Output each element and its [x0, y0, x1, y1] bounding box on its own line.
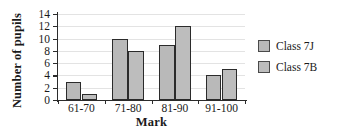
- y-axis-tick-label: 10: [39, 33, 51, 45]
- x-axis-category-label: 61-70: [68, 102, 95, 114]
- legend-item: Class 7B: [258, 57, 317, 76]
- gridline: [58, 51, 245, 52]
- y-axis-tick-label: 2: [44, 82, 50, 94]
- x-axis-title: Mark: [58, 115, 245, 130]
- bar: [112, 39, 128, 100]
- gridline: [58, 14, 245, 15]
- gridline: [58, 63, 245, 64]
- bar: [222, 69, 238, 100]
- y-axis-tick-label: 8: [44, 45, 50, 57]
- y-axis-tick-label: 4: [44, 69, 50, 81]
- bar: [206, 75, 222, 100]
- legend-label: Class 7B: [276, 61, 317, 73]
- y-axis-title: Number of pupils: [10, 13, 25, 109]
- plot-inner: 0246810121461-7071-8081-9091-100: [58, 14, 245, 100]
- x-axis-category-label: 81-90: [161, 102, 188, 114]
- x-axis-category-label: 71-80: [115, 102, 142, 114]
- y-axis-tick-label: 12: [39, 20, 51, 32]
- bar-chart: Number of pupils 0246810121461-7071-8081…: [0, 0, 342, 138]
- gridline: [58, 26, 245, 27]
- bar: [128, 51, 144, 100]
- bar: [175, 26, 191, 100]
- legend-label: Class 7J: [276, 40, 314, 52]
- x-axis-category-label: 91-100: [205, 102, 238, 114]
- bar: [159, 45, 175, 100]
- legend-swatch: [258, 40, 270, 52]
- legend-swatch: [258, 61, 270, 73]
- x-axis-line: [57, 100, 247, 101]
- y-axis-line: [57, 12, 58, 102]
- legend: Class 7JClass 7B: [258, 36, 317, 78]
- legend-item: Class 7J: [258, 36, 317, 55]
- y-axis-tick-label: 14: [39, 8, 51, 20]
- y-axis-tick-label: 0: [44, 94, 50, 106]
- bar: [66, 82, 82, 100]
- plot-area: 0246810121461-7071-8081-9091-100: [58, 14, 245, 100]
- gridline: [58, 39, 245, 40]
- y-axis-tick-label: 6: [44, 57, 50, 69]
